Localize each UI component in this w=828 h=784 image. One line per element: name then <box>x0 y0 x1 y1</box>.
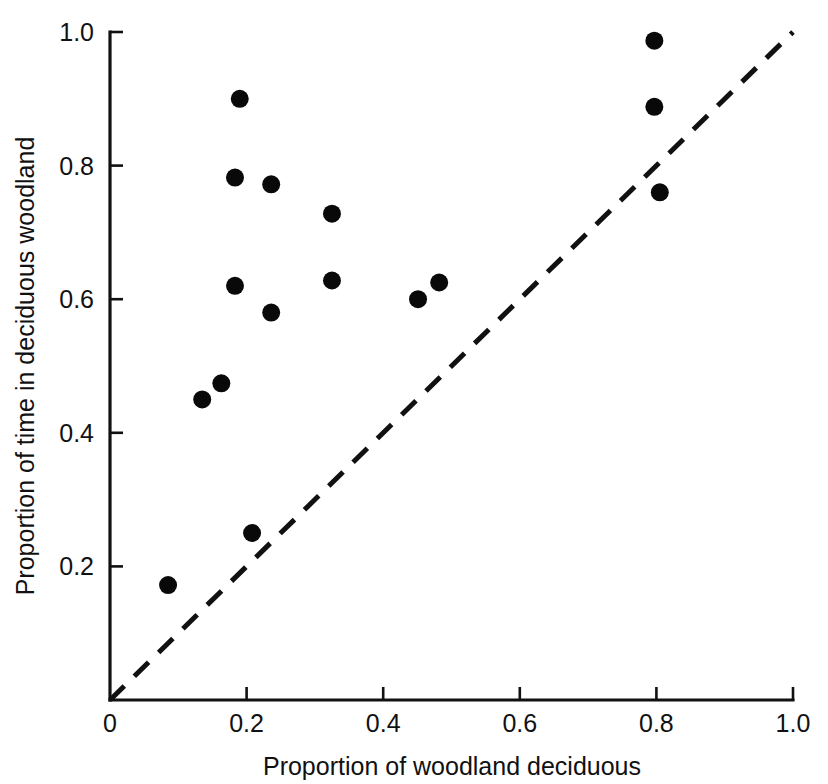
scatter-plot-figure: 00.20.40.60.81.0 0.20.40.60.81.0 Proport… <box>0 0 828 784</box>
x-tick-label-5: 1.0 <box>776 709 811 737</box>
data-point <box>193 390 211 408</box>
data-point <box>651 183 669 201</box>
x-tick-label-1: 0.2 <box>229 709 264 737</box>
data-point-group <box>159 32 669 594</box>
data-point <box>226 277 244 295</box>
y-tick-label-4: 1.0 <box>59 18 94 46</box>
data-point <box>323 271 341 289</box>
x-axis-title: Proportion of woodland deciduous <box>263 752 641 780</box>
y-tick-label-1: 0.4 <box>59 419 94 447</box>
y-axis-title: Proportion of time in deciduous woodland <box>11 137 39 596</box>
data-point <box>231 90 249 108</box>
x-axis-tick-labels: 00.20.40.60.81.0 <box>103 709 810 737</box>
x-tick-label-2: 0.4 <box>366 709 401 737</box>
x-tick-label-3: 0.6 <box>502 709 537 737</box>
data-point <box>262 304 280 322</box>
data-point <box>645 98 663 116</box>
y-axis-ticks <box>110 32 123 566</box>
x-axis-ticks <box>247 687 793 700</box>
data-point <box>323 205 341 223</box>
data-point <box>409 290 427 308</box>
data-point <box>243 524 261 542</box>
x-tick-label-4: 0.8 <box>639 709 674 737</box>
data-point <box>262 175 280 193</box>
plot-canvas: 00.20.40.60.81.0 0.20.40.60.81.0 Proport… <box>0 0 828 784</box>
one-to-one-reference-line <box>110 32 793 700</box>
y-tick-label-3: 0.8 <box>59 152 94 180</box>
data-point <box>226 169 244 187</box>
data-point <box>645 32 663 50</box>
y-axis-tick-labels: 0.20.40.60.81.0 <box>59 18 94 580</box>
data-point <box>430 274 448 292</box>
y-tick-label-2: 0.6 <box>59 285 94 313</box>
x-tick-label-0: 0 <box>103 709 117 737</box>
data-point <box>212 374 230 392</box>
data-point <box>159 576 177 594</box>
y-tick-label-0: 0.2 <box>59 552 94 580</box>
reference-line-group <box>110 32 793 700</box>
